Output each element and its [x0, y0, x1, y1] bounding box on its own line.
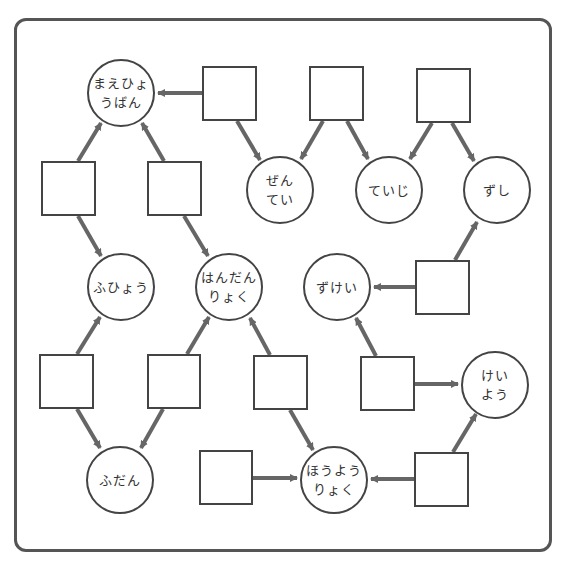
arrow-edge [237, 121, 260, 160]
blank-answer-box[interactable] [41, 161, 96, 216]
arrow-edge [78, 123, 101, 161]
arrow-edge [78, 216, 101, 256]
node-label: ふひょう [93, 278, 149, 297]
blank-answer-box[interactable] [39, 354, 94, 409]
blank-answer-box[interactable] [415, 260, 470, 315]
word-circle-node: ずけい [303, 253, 371, 321]
blank-answer-box[interactable] [416, 68, 471, 123]
node-label: ずし [483, 181, 511, 200]
node-label: よう [481, 385, 509, 404]
arrow-edge [453, 414, 476, 452]
node-label: てい [266, 190, 294, 209]
blank-answer-box[interactable] [147, 161, 202, 216]
word-circle-node: ふひょう [87, 253, 155, 321]
node-label: ほうよう [306, 461, 362, 480]
arrow-edge [250, 318, 270, 355]
arrow-edge [356, 318, 376, 356]
blank-answer-box[interactable] [202, 66, 257, 121]
blank-answer-box[interactable] [147, 354, 201, 409]
arrow-edge [142, 123, 164, 161]
word-circle-node: ほうようりょく [300, 446, 368, 514]
word-circle-node: ていじ [355, 156, 423, 224]
node-label: まえひょ [93, 74, 149, 93]
arrow-edge [455, 222, 477, 260]
node-label: ずけい [316, 278, 358, 297]
blank-answer-box[interactable] [253, 355, 308, 410]
node-label: うばん [100, 93, 142, 112]
node-label: ていじ [368, 181, 410, 200]
arrow-edge [184, 216, 208, 256]
diagram-canvas: まえひょうばんぜんていていじずしふひょうはんだんりょくずけいけいようふだんほうよ… [0, 0, 569, 568]
node-label: はんだん [201, 268, 257, 287]
arrow-edge [347, 121, 368, 159]
arrow-edge [290, 410, 313, 450]
arrow-edge [452, 123, 474, 161]
blank-answer-box[interactable] [309, 66, 364, 121]
word-circle-node: けいよう [461, 351, 529, 419]
word-circle-node: ずし [463, 156, 531, 224]
blank-answer-box[interactable] [199, 450, 253, 505]
node-label: りょく [208, 287, 250, 306]
arrow-edge [77, 409, 100, 448]
arrow-edge [410, 123, 432, 159]
blank-answer-box[interactable] [414, 452, 469, 507]
arrow-edge [301, 121, 323, 159]
arrow-edge [187, 317, 209, 354]
node-label: けい [481, 366, 509, 385]
arrow-edge [77, 317, 100, 354]
arrow-edge [141, 409, 163, 448]
word-circle-node: はんだんりょく [195, 253, 263, 321]
node-label: ふだん [99, 471, 141, 490]
word-circle-node: まえひょうばん [87, 59, 155, 127]
word-circle-node: ふだん [86, 446, 154, 514]
word-circle-node: ぜんてい [246, 156, 314, 224]
blank-answer-box[interactable] [360, 356, 415, 411]
node-label: ぜん [266, 171, 294, 190]
node-label: りょく [313, 480, 355, 499]
